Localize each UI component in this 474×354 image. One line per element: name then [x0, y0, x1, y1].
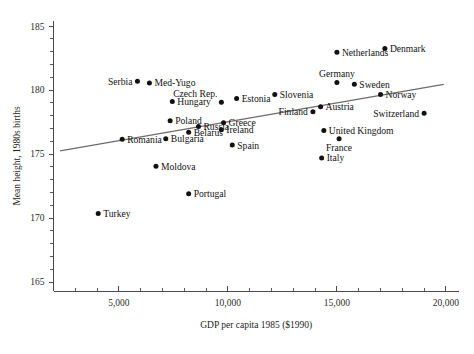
x-axis-title: GDP per capita 1985 ($1990) — [200, 320, 312, 331]
data-point — [170, 99, 175, 104]
data-point — [147, 81, 152, 86]
data-point — [163, 136, 168, 141]
y-tick-label: 180 — [30, 85, 45, 95]
data-point-label: Portugal — [194, 188, 227, 199]
data-point-label: Czech Rep. — [173, 88, 217, 99]
data-point-label: United Kingdom — [329, 125, 394, 136]
data-point — [337, 136, 342, 141]
data-point — [230, 143, 235, 148]
data-point-label: Netherlands — [342, 47, 389, 58]
data-point-label: Ireland — [226, 124, 253, 135]
x-tick-label: 15,000 — [324, 298, 350, 308]
data-point — [334, 50, 339, 55]
data-point-label: Italy — [327, 152, 345, 163]
data-point-label: Bulgaria — [171, 133, 205, 144]
data-point — [135, 79, 140, 84]
data-point-label: Serbia — [108, 76, 133, 87]
x-tick-label: 10,000 — [215, 298, 241, 308]
data-point — [318, 104, 323, 109]
data-point — [334, 80, 339, 85]
data-label-group: SerbiaMed-YugoHungaryCzech Rep.EstoniaSl… — [103, 43, 426, 219]
data-point-label: France — [326, 142, 352, 153]
data-point — [310, 109, 315, 114]
data-point — [219, 100, 224, 105]
x-axis-tick-labels: 5,00010,00015,00020,000 — [108, 298, 459, 308]
data-point-label: Turkey — [103, 208, 131, 219]
plot-area: 5,00010,00015,00020,000 165170175180185 … — [0, 0, 474, 354]
data-point — [321, 128, 326, 133]
data-point — [272, 92, 277, 97]
data-point-label: Austria — [326, 101, 355, 112]
data-point — [319, 155, 324, 160]
data-point-label: Spain — [237, 140, 259, 151]
y-axis-title: Mean height, 1980s births — [12, 106, 22, 206]
data-point — [352, 82, 357, 87]
scatter-plot-figure: 5,00010,00015,00020,000 165170175180185 … — [0, 0, 474, 354]
data-point-label: Poland — [175, 115, 202, 126]
data-point — [96, 211, 101, 216]
data-point — [186, 191, 191, 196]
x-tick-label: 5,000 — [108, 298, 130, 308]
data-point-label: Slovenia — [280, 89, 314, 100]
data-point — [168, 118, 173, 123]
data-point — [422, 111, 427, 116]
data-point-label: Romania — [127, 134, 162, 145]
data-point-label: Germany — [319, 68, 355, 79]
data-point-label: Estonia — [242, 93, 272, 104]
y-tick-label: 185 — [30, 22, 45, 32]
data-point-label: Denmark — [390, 43, 426, 54]
data-point-label: Moldova — [161, 161, 196, 172]
data-point — [234, 96, 239, 101]
y-tick-label: 165 — [30, 277, 45, 287]
data-point — [153, 164, 158, 169]
data-point — [378, 92, 383, 97]
y-tick-label: 170 — [30, 213, 45, 223]
y-tick-label: 175 — [30, 149, 45, 159]
data-point-label: Norway — [386, 89, 417, 100]
y-axis-tick-labels: 165170175180185 — [30, 22, 45, 288]
x-axis-major-ticks — [119, 286, 446, 291]
x-axis-minor-ticks — [54, 288, 425, 292]
data-point-label: Switzerland — [373, 108, 419, 119]
data-point-label: Finland — [279, 106, 309, 117]
x-tick-label: 20,000 — [433, 298, 459, 308]
data-point — [120, 137, 125, 142]
